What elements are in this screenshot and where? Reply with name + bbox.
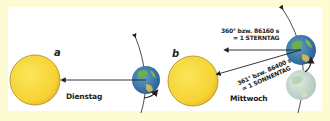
earth-previous-icon xyxy=(286,70,316,100)
sidereal-line1: 360° bzw. 86160 s xyxy=(221,27,279,34)
sidereal-line2: = 1 STERNTAG xyxy=(221,34,279,41)
panel-a xyxy=(10,36,160,113)
day-label-wednesday: Mittwoch xyxy=(230,94,267,103)
panel-letter-a: a xyxy=(54,47,61,58)
day-label-tuesday: Dienstag xyxy=(66,92,102,101)
sun-icon xyxy=(10,55,60,105)
panel-letter-b: b xyxy=(172,48,179,59)
sidereal-day-annotation: 360° bzw. 86160 s = 1 STERNTAG xyxy=(221,27,279,41)
sun-icon xyxy=(168,56,218,106)
